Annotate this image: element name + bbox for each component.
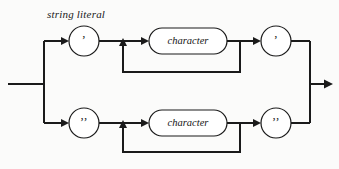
top-branch-entry-arrow-icon: [61, 37, 69, 45]
top-close-quote-label: ’: [274, 33, 279, 47]
bottom-close-quote-arrow-icon: [253, 119, 261, 127]
bottom-branch-entry-arrow-icon: [61, 119, 69, 127]
top-close-quote-arrow-icon: [253, 37, 261, 45]
railroad-diagram-canvas: string literal ’ character: [0, 0, 339, 169]
branch-double-quoted: ’’ character ’’: [44, 108, 310, 152]
bottom-character-label: character: [168, 117, 210, 128]
entry-rail-group: [8, 41, 44, 123]
bottom-character-entry-arrow-icon: [141, 119, 149, 127]
top-open-quote-label: ’: [82, 33, 87, 47]
exit-arrow-icon: [324, 80, 333, 89]
bottom-open-quote-label: ’’: [80, 115, 88, 129]
exit-rail-group: [310, 41, 333, 123]
top-character-entry-arrow-icon: [141, 37, 149, 45]
railroad-svg: ’ character ’: [0, 0, 339, 169]
bottom-close-quote-label: ’’: [272, 115, 280, 129]
branch-single-quoted: ’ character ’: [44, 26, 310, 72]
top-character-label: character: [168, 35, 210, 46]
